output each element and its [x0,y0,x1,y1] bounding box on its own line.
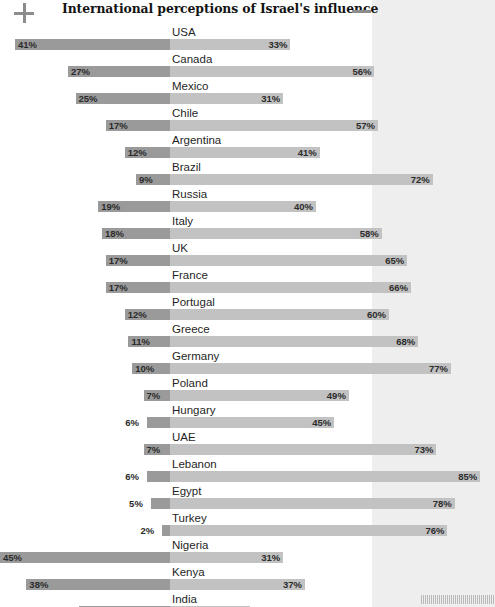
bar-right-value: 57% [351,120,375,131]
country-label: Kenya [172,566,205,579]
bar-right-value: 60% [362,309,386,320]
chart-header: International perceptions of Israel's in… [0,0,495,26]
bar-right-value: 49% [322,390,346,401]
bar-left-value: 7% [147,390,161,401]
diverging-bar-chart: USA41%33%Canada27%56%Mexico25%31%Chile17… [0,26,495,594]
chart-row: Hungary6%45% [0,404,495,431]
bar-right-value: 37% [278,579,302,590]
chart-row: Brazil9%72% [0,161,495,188]
bar-right [170,444,436,455]
resize-grip[interactable] [421,595,495,604]
bar-right [170,255,407,266]
chart-row: UK17%65% [0,242,495,269]
bar-left-value: 18% [105,228,124,239]
bar-track: 6%85% [0,471,495,482]
bar-left-value: 17% [109,120,128,131]
bar-right [170,471,480,482]
country-label: Chile [172,107,198,120]
country-label: India [172,593,197,606]
plus-icon[interactable] [14,3,34,23]
country-label: Canada [172,53,212,66]
chart-row: Greece11%68% [0,323,495,350]
bar-track: 38%37% [0,579,495,590]
bar-right-value: 56% [347,66,371,77]
bar-left-value: 45% [3,552,22,563]
minus-icon[interactable] [352,10,371,13]
bar-track: 7%73% [0,444,495,455]
bar-right-value: 77% [424,363,448,374]
bar-left-value: 25% [79,93,98,104]
country-label: Hungary [172,404,215,417]
bar-left [147,417,170,428]
country-label: Russia [172,188,207,201]
bar-track: 5%78% [0,498,495,509]
bar-left [147,471,170,482]
bar-right [170,525,447,536]
bar-track: 12%60% [0,309,495,320]
bar-left-value: 27% [71,66,90,77]
chart-row: France17%66% [0,269,495,296]
bar-right-value: 85% [453,471,477,482]
bar-left-value: 17% [109,255,128,266]
chart-row: USA41%33% [0,26,495,53]
bar-right-value: 73% [409,444,433,455]
bar-track: 17%66% [0,282,495,293]
bar-left-value: 41% [18,39,37,50]
bar-right-value: 72% [406,174,430,185]
bar-track: 11%68% [0,336,495,347]
bar-right-value: 41% [293,147,317,158]
bar-right [170,120,378,131]
country-label: France [172,269,208,282]
bar-right-value: 76% [420,525,444,536]
country-label: Italy [172,215,193,228]
chart-row: Russia19%40% [0,188,495,215]
bar-right-value: 58% [355,228,379,239]
bar-left [0,552,170,563]
chart-row: Portugal12%60% [0,296,495,323]
country-label: Nigeria [172,539,208,552]
chart-row: Nigeria45%31% [0,539,495,566]
bar-track: 12%41% [0,147,495,158]
bar-track: 25%31% [0,93,495,104]
bar-right [170,363,451,374]
country-label: USA [172,26,196,39]
chart-row: Mexico25%31% [0,80,495,107]
bar-left-value: 38% [29,579,48,590]
bar-left [162,525,170,536]
country-label: UK [172,242,188,255]
bar-right-value: 68% [391,336,415,347]
country-label: Mexico [172,80,208,93]
bar-right [170,336,418,347]
country-label: Greece [172,323,210,336]
country-label: Germany [172,350,219,363]
chart-row: Germany10%77% [0,350,495,377]
bar-track: 19%40% [0,201,495,212]
bar-right-value: 45% [307,417,331,428]
bar-track: 45%31% [0,552,495,563]
country-label: UAE [172,431,196,444]
bar-track: 41%33% [0,39,495,50]
bar-left [15,39,170,50]
bar-right [170,498,455,509]
bar-left-value: 12% [128,147,147,158]
country-label: Portugal [172,296,215,309]
chart-row: Egypt5%78% [0,485,495,512]
bar-left [151,498,170,509]
bar-track: 10%77% [0,363,495,374]
chart-row: Italy18%58% [0,215,495,242]
bar-right [170,66,374,77]
country-label: Poland [172,377,208,390]
chart-row: Argentina12%41% [0,134,495,161]
bar-left-value: 12% [128,309,147,320]
bar-left-value: 11% [131,336,150,347]
bar-track: 27%56% [0,66,495,77]
bar-track: 17%57% [0,120,495,131]
bar-left-value: 9% [139,174,153,185]
bar-left-value: 6% [125,417,139,428]
country-label: Argentina [172,134,221,147]
chart-row: Turkey2%76% [0,512,495,539]
chart-row: Lebanon6%85% [0,458,495,485]
bar-track: 2%76% [0,525,495,536]
bar-track: 17%65% [0,255,495,266]
bar-track: 9%72% [0,174,495,185]
